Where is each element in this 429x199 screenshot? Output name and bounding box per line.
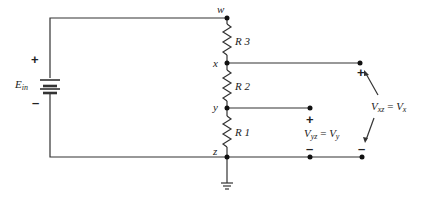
node-x-dot xyxy=(225,61,230,66)
node-y-label: y xyxy=(212,101,218,113)
vxz-arrow-down xyxy=(366,118,374,140)
node-y-dot xyxy=(225,106,230,111)
node-x-label: x xyxy=(212,57,218,69)
vyz-label: Vyz = Vy xyxy=(304,127,340,141)
node-w-dot xyxy=(225,16,230,21)
source-plus: + xyxy=(31,52,39,67)
node-w-label: w xyxy=(217,3,225,15)
circuit-svg: + – Ein w x y z R 3 R 2 R 1 + – Vyz = Vy… xyxy=(0,0,429,199)
vxz-plus: + xyxy=(357,65,365,80)
battery-icon xyxy=(40,80,60,93)
bottom-left-wire xyxy=(50,94,227,157)
vyz-minus: – xyxy=(306,141,313,156)
resistor-r1-label: R 1 xyxy=(234,126,250,138)
resistor-r1-zigzag xyxy=(223,116,231,147)
source-minus: – xyxy=(32,95,39,110)
circuit-diagram: + – Ein w x y z R 3 R 2 R 1 + – Vyz = Vy… xyxy=(0,0,429,199)
node-z-dot xyxy=(225,155,230,160)
ground-icon xyxy=(221,183,233,189)
vxz-minus: – xyxy=(358,141,365,156)
resistor-r3-label: R 3 xyxy=(234,35,250,47)
top-wire xyxy=(50,18,227,78)
resistor-r2-label: R 2 xyxy=(234,80,250,92)
arrowhead-up xyxy=(364,70,369,76)
resistor-r3-zigzag xyxy=(223,24,231,55)
node-z-label: z xyxy=(212,145,218,157)
vyz-plus: + xyxy=(306,112,314,127)
vxz-arrow-up xyxy=(365,72,378,95)
vxz-label: Vxz = Vx xyxy=(371,100,407,114)
source-label: Ein xyxy=(14,78,28,92)
resistor-r2-zigzag xyxy=(223,70,231,101)
terminal-y-dot xyxy=(308,106,313,111)
